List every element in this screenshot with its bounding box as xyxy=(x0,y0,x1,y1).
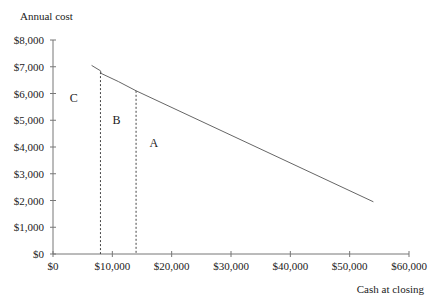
y-tick-label: $3,000 xyxy=(14,168,45,180)
y-tick-label: $2,000 xyxy=(14,195,45,207)
x-tick-label: $30,000 xyxy=(213,260,249,272)
y-tick-label: $0 xyxy=(33,248,45,260)
x-tick-label: $60,000 xyxy=(391,260,427,272)
x-tick-label: $50,000 xyxy=(332,260,368,272)
x-tick-label: $0 xyxy=(48,260,60,272)
x-tick-label: $40,000 xyxy=(272,260,308,272)
region-label-a: A xyxy=(150,136,159,150)
plot-area: CBA xyxy=(70,65,374,254)
x-axis-title: Cash at closing xyxy=(357,283,425,295)
y-tick-label: $8,000 xyxy=(14,34,45,46)
y-tick-label: $5,000 xyxy=(14,114,45,126)
x-tick-label: $10,000 xyxy=(94,260,130,272)
y-axis-title: Annual cost xyxy=(20,10,73,22)
region-label-b: B xyxy=(112,113,120,127)
region-label-c: C xyxy=(70,91,78,105)
cost-line xyxy=(92,65,374,201)
y-tick-label: $6,000 xyxy=(14,88,45,100)
y-tick-label: $4,000 xyxy=(14,141,45,153)
y-tick-label: $1,000 xyxy=(14,221,45,233)
y-tick-label: $7,000 xyxy=(14,61,45,73)
axes: $0$1,000$2,000$3,000$4,000$5,000$6,000$7… xyxy=(14,34,428,272)
x-tick-label: $20,000 xyxy=(154,260,190,272)
chart: $0$1,000$2,000$3,000$4,000$5,000$6,000$7… xyxy=(0,0,440,308)
